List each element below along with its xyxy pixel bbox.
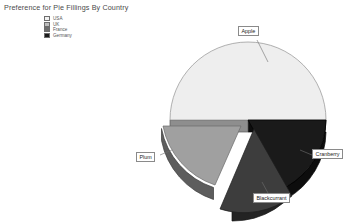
- slice-label-apple[interactable]: Apple: [238, 26, 259, 36]
- pie-slice-plum[interactable]: [163, 126, 241, 185]
- chart-canvas: Preference for Pie Fillings By Country U…: [0, 0, 358, 223]
- slice-label-blackcurrant[interactable]: Blackcurrant: [253, 193, 290, 203]
- pie-slice-apple[interactable]: [170, 42, 326, 120]
- slice-label-cranberry[interactable]: Cranberry: [312, 149, 343, 159]
- slice-label-plum[interactable]: Plum: [136, 152, 155, 162]
- pie-chart: [0, 0, 358, 223]
